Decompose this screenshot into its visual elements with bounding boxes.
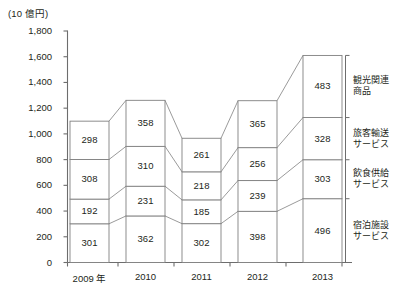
legend-item-label-line1: 観光関連 — [353, 75, 389, 86]
bar-segment-value: 239 — [238, 190, 277, 201]
connector-line — [165, 186, 182, 200]
y-axis-tick-label: 800 — [0, 154, 52, 165]
legend-item-label-line2: 商品 — [353, 86, 389, 97]
connector-line — [165, 100, 182, 138]
connector-line — [221, 148, 238, 172]
x-axis-tick-label: 2011 — [170, 271, 233, 282]
legend-item-label-line1: 旅客輸送 — [353, 128, 389, 139]
bar-segment-value: 301 — [70, 237, 109, 248]
bar-segment-value: 302 — [182, 237, 221, 248]
bar-segment-value: 218 — [182, 180, 221, 191]
connector-line — [165, 216, 182, 224]
bar-segment-value: 256 — [238, 158, 277, 169]
connector-line — [277, 118, 303, 148]
y-axis-tick-label: 1,800 — [0, 25, 52, 36]
legend-item-label-line2: サービス — [353, 179, 389, 190]
legend-rule — [346, 55, 350, 262]
legend-item: 観光関連商品 — [353, 75, 389, 97]
connector-line — [109, 100, 126, 121]
connector-line — [165, 146, 182, 171]
bar-segment-value: 261 — [182, 149, 221, 160]
y-axis-tick-label: 200 — [0, 231, 52, 242]
connector-line — [221, 101, 238, 139]
legend-item-label-line1: 宿泊施設 — [353, 220, 389, 231]
x-axis-tick-label: 2013 — [291, 271, 354, 282]
y-axis-tick-label: 600 — [0, 179, 52, 190]
y-axis-tick-label: 1,200 — [0, 102, 52, 113]
connector-line — [277, 199, 303, 212]
y-axis-tick-label: 400 — [0, 205, 52, 216]
connector-line — [221, 181, 238, 200]
bar-segment-value: 192 — [70, 205, 109, 216]
legend-item-label-line2: サービス — [353, 139, 389, 150]
connector-line — [277, 55, 303, 100]
bar-segment-value: 310 — [126, 160, 165, 171]
bar-segment-value: 298 — [70, 134, 109, 145]
y-axis-tick-label: 1,400 — [0, 76, 52, 87]
stacked-bar-chart: (10 億円) 02004006008001,0001,2001,4001,60… — [0, 0, 405, 301]
bar-segment-value: 483 — [303, 80, 342, 91]
bar-segment-value: 328 — [303, 133, 342, 144]
bar-segment-value: 365 — [238, 118, 277, 129]
legend-item-label-line1: 飲食供給 — [353, 168, 389, 179]
y-axis-tick-label: 1,000 — [0, 128, 52, 139]
connector-line — [221, 211, 238, 223]
x-axis-tick-label: 2010 — [114, 271, 177, 282]
x-axis-tick-label: 2012 — [226, 271, 289, 282]
connector-line — [277, 160, 303, 181]
bar-segment-value: 185 — [182, 206, 221, 217]
y-axis-tick-label: 0 — [0, 257, 52, 268]
legend-item: 宿泊施設サービス — [353, 220, 389, 242]
legend-item-label-line2: サービス — [353, 231, 389, 242]
connector-line — [109, 186, 126, 199]
bar-segment-value: 308 — [70, 173, 109, 184]
connector-line — [109, 216, 126, 224]
y-axis-tick-label: 1,600 — [0, 51, 52, 62]
bar-segment-value: 303 — [303, 173, 342, 184]
bar-segment-value: 362 — [126, 233, 165, 244]
x-axis-tick-label: 2009 年 — [58, 271, 121, 285]
connector-line — [109, 146, 126, 159]
legend-item: 旅客輸送サービス — [353, 128, 389, 150]
legend-item: 飲食供給サービス — [353, 168, 389, 190]
bar-segment-value: 231 — [126, 195, 165, 206]
bar-segment-value: 496 — [303, 225, 342, 236]
bar-segment-value: 358 — [126, 117, 165, 128]
bar-segment-value: 398 — [238, 231, 277, 242]
